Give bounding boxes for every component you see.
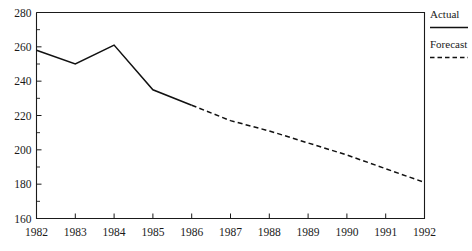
x-tick-label-1985: 1985 xyxy=(141,226,164,238)
series-line-actual xyxy=(37,45,192,105)
x-tick-label-1987: 1987 xyxy=(219,226,242,238)
x-axis-tick-labels: 1982198319841985198619871988198919901991… xyxy=(25,226,436,238)
x-tick-label-1986: 1986 xyxy=(180,226,203,238)
y-tick-label-180: 180 xyxy=(14,178,32,190)
x-tick-label-1988: 1988 xyxy=(258,226,281,238)
y-tick-label-260: 260 xyxy=(14,41,32,53)
x-tick-label-1991: 1991 xyxy=(374,226,397,238)
legend-label-forecast: Forecast xyxy=(430,38,467,50)
series-line-forecast xyxy=(192,105,425,182)
y-axis-tick-labels: 160180200220240260280 xyxy=(14,7,32,225)
y-tick-label-160: 160 xyxy=(14,213,32,225)
y-tick-label-240: 240 xyxy=(14,75,32,87)
plot-frame xyxy=(37,13,425,219)
y-tick-label-280: 280 xyxy=(14,7,32,19)
x-tick-label-1984: 1984 xyxy=(103,226,126,238)
y-axis-major-ticks xyxy=(37,13,42,219)
chart-legend: Actual Forecast xyxy=(430,8,468,58)
x-axis-major-ticks xyxy=(37,214,425,219)
x-tick-label-1983: 1983 xyxy=(64,226,87,238)
chart-canvas: 160180200220240260280 198219831984198519… xyxy=(0,0,472,251)
x-tick-label-1982: 1982 xyxy=(25,226,48,238)
x-tick-label-1990: 1990 xyxy=(335,226,358,238)
legend-label-actual: Actual xyxy=(430,8,459,20)
x-tick-label-1989: 1989 xyxy=(297,226,320,238)
y-tick-label-220: 220 xyxy=(14,110,32,122)
line-chart: 160180200220240260280 198219831984198519… xyxy=(0,0,472,251)
x-tick-label-1992: 1992 xyxy=(413,226,436,238)
y-tick-label-200: 200 xyxy=(14,144,32,156)
